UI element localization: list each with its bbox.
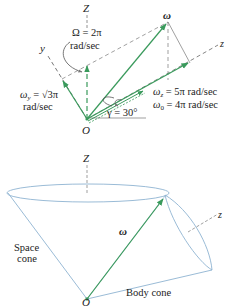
guide-line-omega-to-z bbox=[168, 22, 190, 63]
omega-y-symbol: ω bbox=[20, 89, 27, 100]
bottom-axis-z-label: z bbox=[217, 209, 222, 220]
gamma-label: γ = 30° bbox=[106, 107, 138, 118]
top-axis-Z-label: Z bbox=[83, 2, 90, 14]
body-cone-rim bbox=[165, 195, 212, 270]
omega-z-symbol: ω bbox=[153, 86, 160, 97]
body-cone-label: Body cone bbox=[126, 287, 172, 298]
precession-diagram: Z y z ω Ω = 2π rad/sec ωy = √3π r bbox=[0, 0, 236, 307]
space-cone-rim bbox=[7, 184, 169, 202]
omega-y-vector bbox=[63, 81, 87, 119]
omega-y-value: = √3π bbox=[31, 89, 59, 100]
Omega-label-line2: rad/sec bbox=[70, 40, 100, 51]
space-cone-label-line2: cone bbox=[17, 253, 37, 264]
top-origin-label: O bbox=[82, 124, 90, 136]
omega-0-label: ω0 = 4π rad/sec bbox=[153, 99, 218, 112]
bottom-z-axis-line bbox=[188, 214, 218, 232]
Omega-label-line1: Ω = 2π bbox=[72, 27, 102, 38]
top-diagram: Z y z ω Ω = 2π rad/sec ωy = √3π r bbox=[20, 2, 224, 136]
omega-0-value: = 4π rad/sec bbox=[164, 99, 218, 110]
top-origin-point bbox=[85, 117, 88, 120]
omega-z-label: ωz = 5π rad/sec bbox=[153, 86, 218, 99]
bottom-diagram: Z z ω O Space cone Body cone bbox=[7, 152, 222, 307]
bottom-origin-label: O bbox=[82, 296, 90, 307]
top-axis-y-label: y bbox=[39, 42, 45, 54]
bottom-omega-label: ω bbox=[119, 225, 127, 237]
omega-z-value: = 5π rad/sec bbox=[163, 86, 217, 97]
top-axis-z-label: z bbox=[219, 38, 224, 49]
top-omega-label: ω bbox=[163, 9, 171, 21]
omega-y-label-line2: rad/sec bbox=[23, 101, 53, 112]
bottom-axis-Z-label: Z bbox=[83, 152, 90, 164]
omega-0-symbol: ω bbox=[153, 99, 160, 110]
space-cone-label-line1: Space bbox=[14, 242, 39, 253]
